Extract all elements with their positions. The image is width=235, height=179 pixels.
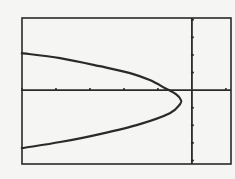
plot-area xyxy=(0,0,235,179)
parabola-curve xyxy=(22,53,181,148)
graph-screen xyxy=(0,0,235,179)
